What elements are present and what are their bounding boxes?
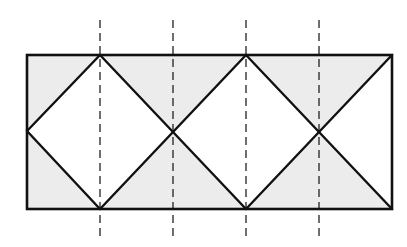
shaded-regions: [27, 55, 392, 209]
geometry-diagram: [0, 0, 407, 247]
